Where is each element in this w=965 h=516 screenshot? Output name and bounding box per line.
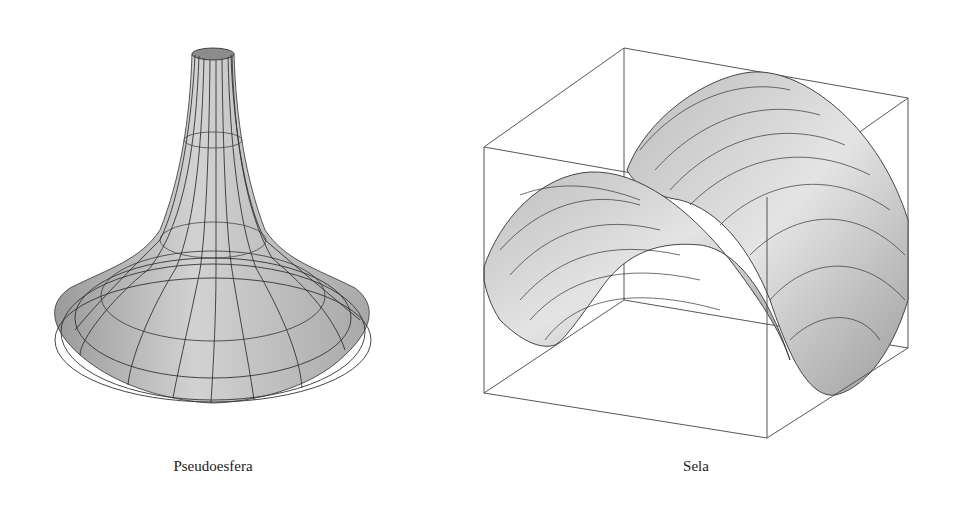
pseudosphere-surface [55,48,371,403]
saddle-caption: Sela [596,458,796,475]
saddle-plot [484,48,908,438]
figure-canvas [0,0,965,516]
pseudosphere-body [55,54,370,403]
pseudosphere-caption: Pseudoesfera [113,458,313,475]
